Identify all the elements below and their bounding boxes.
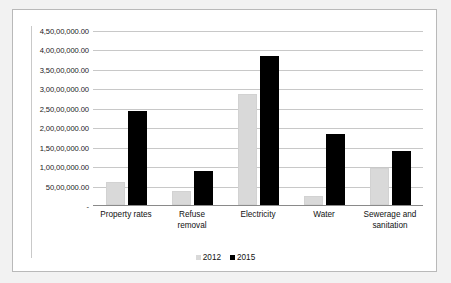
y-axis: -50,00,000.001,00,00,000.001,50,00,000.0… (27, 31, 89, 206)
bar-2012-water[interactable] (304, 196, 323, 205)
bar-2012-refuse-removal[interactable] (172, 191, 191, 205)
legend-swatch-icon (196, 255, 201, 260)
y-tick-label: 4,00,00,000.00 (40, 46, 89, 55)
x-tick-label-line: Refuse (159, 209, 225, 220)
y-tick-label: 1,50,00,000.00 (40, 143, 89, 152)
x-axis: Property ratesRefuseremovalElectricityWa… (93, 209, 423, 245)
y-tick-label: 2,50,00,000.00 (40, 104, 89, 113)
bar-group (357, 30, 423, 205)
x-tick-label-line: Water (291, 209, 357, 220)
legend-item-2015[interactable]: 2015 (230, 253, 255, 262)
y-tick-label: 4,50,00,000.00 (40, 27, 89, 36)
x-tick-label: Sewerage andsanitation (357, 209, 423, 231)
x-tick-label: Electricity (225, 209, 291, 220)
x-tick-label-line: Sewerage and (357, 209, 423, 220)
chart-frame: -50,00,000.001,00,00,000.001,50,00,000.0… (12, 9, 437, 272)
bar-group (159, 30, 225, 205)
x-tick-label: Water (291, 209, 357, 220)
y-tick-label: 1,00,00,000.00 (40, 163, 89, 172)
x-tick-label-line: sanitation (357, 220, 423, 231)
y-tick-label: 2,00,00,000.00 (40, 124, 89, 133)
legend-swatch-icon (230, 255, 235, 260)
x-tick-label-line: removal (159, 220, 225, 231)
legend-item-2012[interactable]: 2012 (196, 253, 221, 262)
legend-label: 2015 (237, 253, 255, 262)
plot-area (93, 31, 423, 206)
y-tick-label: 3,00,00,000.00 (40, 85, 89, 94)
bar-2015-water[interactable] (326, 134, 345, 205)
bar-2012-sewerage-and-sanitation[interactable] (370, 168, 389, 205)
bar-2015-electricity[interactable] (260, 56, 279, 205)
x-tick-label-line: Electricity (225, 209, 291, 220)
bar-2015-refuse-removal[interactable] (194, 171, 213, 205)
y-tick-label: 3,50,00,000.00 (40, 65, 89, 74)
x-tick-label: Refuseremoval (159, 209, 225, 231)
x-tick-label-line: Property rates (93, 209, 159, 220)
bar-group (93, 30, 159, 205)
y-tick-label: 50,00,000.00 (46, 182, 89, 191)
chart-legend: 20122015 (13, 253, 438, 262)
x-tick-label: Property rates (93, 209, 159, 220)
bar-2012-electricity[interactable] (238, 94, 257, 205)
bar-2012-property-rates[interactable] (106, 182, 125, 205)
bar-2015-sewerage-and-sanitation[interactable] (392, 151, 411, 205)
bar-group (291, 30, 357, 205)
chart-page: -50,00,000.001,00,00,000.001,50,00,000.0… (0, 0, 451, 283)
bar-2015-property-rates[interactable] (128, 111, 147, 206)
bars-layer (93, 31, 423, 206)
legend-label: 2012 (203, 253, 221, 262)
y-tick-label: - (87, 202, 89, 211)
bar-group (225, 30, 291, 205)
